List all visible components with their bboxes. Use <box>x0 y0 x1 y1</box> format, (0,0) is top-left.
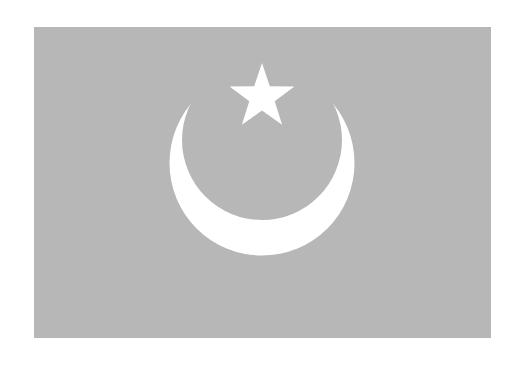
flag-graphic <box>34 27 491 338</box>
flag <box>34 27 491 338</box>
